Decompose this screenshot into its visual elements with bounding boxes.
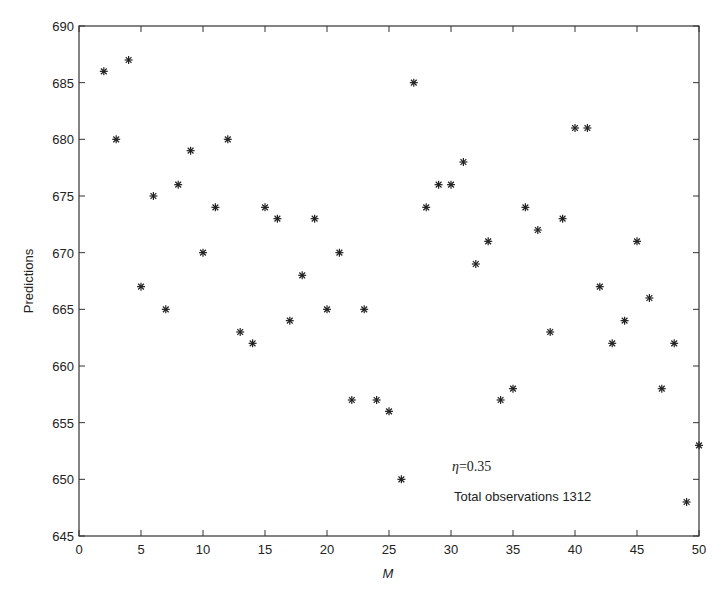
- x-tick-label: 5: [137, 542, 144, 557]
- asterisk-marker: [162, 305, 170, 313]
- x-tick-label: 45: [630, 542, 644, 557]
- asterisk-marker: [608, 339, 616, 347]
- asterisk-marker: [645, 294, 653, 302]
- y-tick-label: 670: [52, 246, 74, 261]
- asterisk-marker: [385, 407, 393, 415]
- asterisk-marker: [559, 215, 567, 223]
- x-tick-label: 40: [568, 542, 582, 557]
- x-tick-label: 30: [444, 542, 458, 557]
- asterisk-marker: [199, 249, 207, 257]
- asterisk-marker: [224, 135, 232, 143]
- asterisk-marker: [149, 192, 157, 200]
- asterisk-marker: [658, 385, 666, 393]
- asterisk-marker: [125, 56, 133, 64]
- asterisk-marker: [211, 203, 219, 211]
- asterisk-marker: [509, 385, 517, 393]
- asterisk-marker: [571, 124, 579, 132]
- asterisk-marker: [459, 158, 467, 166]
- asterisk-marker: [348, 396, 356, 404]
- y-tick-label: 645: [52, 529, 74, 544]
- asterisk-marker: [410, 79, 418, 87]
- y-tick-label: 655: [52, 416, 74, 431]
- x-axis-title: M: [383, 566, 394, 581]
- asterisk-marker: [472, 260, 480, 268]
- asterisk-marker: [546, 328, 554, 336]
- eta-value: =0.35: [459, 459, 491, 474]
- x-tick-label: 50: [692, 542, 706, 557]
- asterisk-marker: [236, 328, 244, 336]
- asterisk-marker: [596, 283, 604, 291]
- asterisk-marker: [100, 67, 108, 75]
- asterisk-marker: [261, 203, 269, 211]
- eta-annotation: η=0.35: [452, 459, 491, 474]
- x-tick-label: 10: [196, 542, 210, 557]
- asterisk-marker: [521, 203, 529, 211]
- asterisk-marker: [633, 237, 641, 245]
- y-tick-label: 665: [52, 302, 74, 317]
- plot-area: [79, 26, 699, 536]
- y-tick-label: 680: [52, 132, 74, 147]
- asterisk-marker: [112, 135, 120, 143]
- asterisk-marker: [435, 181, 443, 189]
- axis-ticks: 0510152025303540455064565065566066567067…: [52, 19, 706, 557]
- asterisk-marker: [137, 283, 145, 291]
- asterisk-marker: [583, 124, 591, 132]
- total-observations-annotation: Total observations 1312: [454, 489, 591, 504]
- x-tick-label: 0: [75, 542, 82, 557]
- asterisk-marker: [335, 249, 343, 257]
- asterisk-marker: [298, 271, 306, 279]
- asterisk-marker: [683, 498, 691, 506]
- x-tick-label: 15: [258, 542, 272, 557]
- asterisk-marker: [621, 317, 629, 325]
- asterisk-marker: [323, 305, 331, 313]
- x-tick-label: 20: [320, 542, 334, 557]
- scatter-chart: 0510152025303540455064565065566066567067…: [0, 0, 723, 606]
- x-tick-label: 25: [382, 542, 396, 557]
- asterisk-marker: [695, 441, 703, 449]
- y-tick-label: 690: [52, 19, 74, 34]
- x-tick-label: 35: [506, 542, 520, 557]
- asterisk-marker: [397, 475, 405, 483]
- asterisk-marker: [249, 339, 257, 347]
- asterisk-marker: [174, 181, 182, 189]
- asterisk-marker: [311, 215, 319, 223]
- asterisk-marker: [286, 317, 294, 325]
- asterisk-marker: [360, 305, 368, 313]
- y-axis-title: Predictions: [21, 248, 36, 313]
- asterisk-marker: [373, 396, 381, 404]
- asterisk-marker: [422, 203, 430, 211]
- y-tick-label: 650: [52, 472, 74, 487]
- asterisk-marker: [484, 237, 492, 245]
- asterisk-marker: [273, 215, 281, 223]
- y-tick-label: 675: [52, 189, 74, 204]
- asterisk-marker: [187, 147, 195, 155]
- asterisk-marker: [670, 339, 678, 347]
- plot-border: [79, 26, 699, 536]
- eta-symbol: η: [452, 459, 459, 474]
- asterisk-marker: [447, 181, 455, 189]
- asterisk-marker: [497, 396, 505, 404]
- y-tick-label: 685: [52, 76, 74, 91]
- data-points: [100, 56, 703, 506]
- y-tick-label: 660: [52, 359, 74, 374]
- asterisk-marker: [534, 226, 542, 234]
